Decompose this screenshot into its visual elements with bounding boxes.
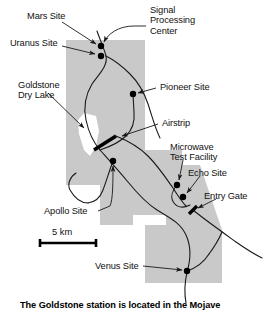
- marker-mars-site: [98, 43, 104, 49]
- figure-caption: The Goldstone station is located in the …: [20, 299, 260, 311]
- goldstone-site-map-figure: Mars Site Uranus Site Signal Processing …: [0, 0, 266, 320]
- marker-uranus-site: [98, 53, 104, 59]
- label-echo-site: Echo Site: [188, 168, 227, 178]
- marker-echo-site: [180, 194, 186, 200]
- scale-bar: [40, 239, 96, 247]
- label-venus-site: Venus Site: [95, 261, 138, 271]
- marker-venus-site: [184, 268, 190, 274]
- scale-bar-label: 5 km: [52, 227, 72, 237]
- marker-apollo-site: [110, 158, 116, 164]
- label-airstrip: Airstrip: [162, 118, 190, 128]
- label-entry-gate: Entry Gate: [204, 191, 247, 201]
- label-pioneer-site: Pioneer Site: [160, 82, 209, 92]
- label-signal-processing-center: Signal Processing Center: [150, 5, 195, 36]
- label-microwave-test-facility: Microwave Test Facility: [170, 142, 217, 163]
- station-boundary-lower-lobe: [166, 165, 222, 283]
- label-mars-site: Mars Site: [27, 11, 65, 21]
- marker-pioneer-site: [130, 91, 136, 97]
- leader-signal-processing-center: [104, 26, 146, 42]
- marker-microwave-test-facility: [174, 182, 180, 188]
- label-goldstone-dry-lake: Goldstone Dry Lake: [18, 80, 59, 101]
- label-apollo-site: Apollo Site: [44, 206, 87, 216]
- label-uranus-site: Uranus Site: [10, 38, 57, 48]
